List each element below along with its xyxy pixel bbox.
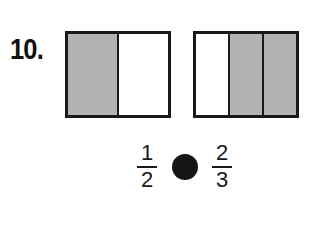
right-numerator: 2 <box>211 142 233 164</box>
model-part-unshaded <box>117 34 168 115</box>
model-part-shaded <box>262 34 296 115</box>
right-fraction: 2 3 <box>211 142 233 191</box>
left-numerator: 1 <box>136 142 158 164</box>
fraction-comparison: 1 2 2 3 <box>0 138 313 196</box>
left-denominator: 2 <box>136 169 158 191</box>
filled-circle-icon[interactable] <box>172 154 198 180</box>
right-denominator: 3 <box>211 169 233 191</box>
model-part-unshaded <box>196 34 228 115</box>
model-part-shaded <box>228 34 262 115</box>
model-part-shaded <box>68 34 117 115</box>
problem-number: 10. <box>10 34 43 64</box>
fraction-model-halves <box>65 31 171 118</box>
left-fraction: 1 2 <box>136 142 158 191</box>
fraction-model-thirds <box>193 31 299 118</box>
